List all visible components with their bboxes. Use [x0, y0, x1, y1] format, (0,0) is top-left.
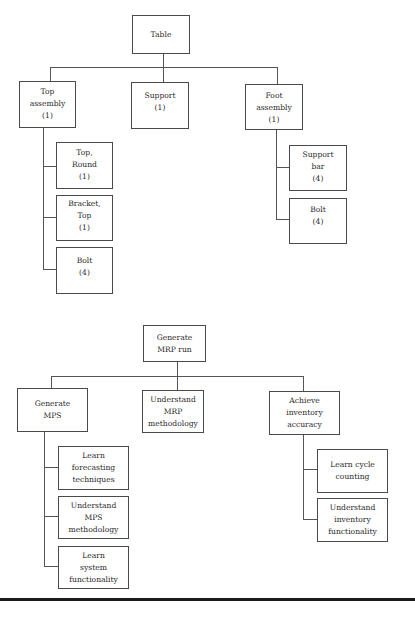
connector — [276, 129, 277, 219]
node-label: accuracy — [287, 419, 322, 431]
node-label: system — [80, 562, 107, 574]
node-label: MRP run — [157, 344, 191, 356]
connector — [276, 167, 289, 168]
node-label: Support — [302, 149, 333, 161]
node-label: counting — [336, 471, 370, 483]
node-label: inventory — [286, 407, 323, 419]
node-label: bar — [311, 161, 324, 173]
node-top-round: Top, Round (1) — [56, 142, 113, 189]
connector — [177, 361, 178, 377]
node-foot-assembly: Foot assembly (1) — [245, 84, 303, 130]
node-label: assembly — [256, 102, 292, 114]
node-learn-forecasting: Learn forecasting techniques — [58, 446, 129, 490]
node-label: Bracket, — [68, 198, 101, 210]
node-label: (1) — [155, 102, 166, 114]
connector — [44, 467, 58, 468]
node-label: Understand — [150, 394, 196, 406]
node-table: Table — [132, 15, 190, 54]
node-label: Understand — [71, 500, 117, 512]
node-label: Top — [78, 210, 92, 222]
node-label: methodology — [148, 418, 198, 430]
node-bracket-top: Bracket, Top (1) — [56, 195, 113, 241]
node-label: (1) — [79, 171, 90, 183]
connector — [43, 166, 56, 167]
node-label: functionality — [69, 574, 118, 586]
node-learn-system: Learn system functionality — [58, 546, 129, 589]
connector — [50, 67, 51, 81]
node-label: MPS — [43, 410, 61, 422]
node-label: Top, — [76, 147, 92, 159]
node-label: techniques — [72, 474, 114, 486]
node-label: Bolt — [77, 255, 93, 267]
connector — [43, 269, 56, 270]
node-label: (4) — [313, 173, 324, 185]
node-label: methodology — [69, 524, 119, 536]
node-label: MPS — [84, 512, 102, 524]
connector — [44, 516, 58, 517]
node-label: Generate — [35, 398, 71, 410]
connector — [303, 519, 317, 520]
node-label: functionality — [328, 526, 377, 538]
node-label: Achieve — [289, 395, 319, 407]
connector — [50, 67, 278, 68]
node-label: (1) — [269, 114, 280, 126]
node-bolt-top: Bolt (4) — [56, 247, 113, 294]
node-top-assembly: Top assembly (1) — [19, 81, 76, 128]
node-understand-mrp: Understand MRP methodology — [142, 390, 204, 433]
connector — [303, 434, 304, 520]
node-label: assembly — [30, 98, 66, 110]
node-label: Learn — [82, 450, 105, 462]
node-label: Foot — [265, 90, 282, 102]
node-generate-mps: Generate MPS — [17, 388, 88, 432]
connector — [51, 376, 52, 388]
node-label: Top — [41, 86, 55, 98]
connector — [177, 376, 178, 390]
node-learn-cycle-counting: Learn cycle counting — [317, 449, 388, 493]
node-understand-mps: Understand MPS methodology — [58, 496, 129, 539]
node-label: Learn cycle — [330, 459, 375, 471]
node-label: Learn — [82, 550, 105, 562]
node-label: Round — [72, 159, 97, 171]
connector — [43, 127, 44, 270]
node-label: (1) — [42, 110, 53, 122]
node-label: Support — [144, 90, 175, 102]
connector — [44, 566, 58, 567]
connector — [303, 469, 317, 470]
page-divider-rule — [0, 598, 415, 601]
node-label: MRP — [164, 406, 183, 418]
connector — [163, 67, 164, 82]
node-support-bar: Support bar (4) — [289, 145, 347, 191]
node-generate-mrp-run: Generate MRP run — [143, 325, 206, 362]
node-bolt-foot: Bolt (4) — [289, 198, 347, 244]
node-label: Bolt — [310, 204, 326, 216]
node-support: Support (1) — [131, 82, 189, 129]
connector — [303, 376, 304, 391]
connector — [276, 219, 289, 220]
node-label: forecasting — [72, 462, 115, 474]
node-label: inventory — [334, 514, 371, 526]
node-achieve-inventory-accuracy: Achieve inventory accuracy — [269, 391, 340, 435]
connector — [163, 53, 164, 68]
node-label: (4) — [79, 267, 90, 279]
node-understand-inventory: Understand inventory functionality — [317, 498, 388, 542]
node-label: Table — [151, 29, 172, 41]
connector — [277, 67, 278, 84]
connector — [44, 431, 45, 567]
node-label: (4) — [313, 216, 324, 228]
node-label: Understand — [330, 502, 376, 514]
node-label: (1) — [79, 222, 90, 234]
connector — [43, 217, 56, 218]
node-label: Generate — [157, 332, 193, 344]
